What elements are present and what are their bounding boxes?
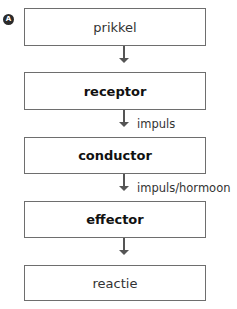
arrow-down-icon <box>119 250 129 255</box>
node-effector-label: effector <box>86 212 143 227</box>
edge-label-impuls: impuls <box>137 117 175 131</box>
edge-label-impuls-hormoon: impuls/hormoon <box>137 181 230 195</box>
arrow-down-icon <box>119 122 129 127</box>
arrow-prikkel-to-receptor <box>119 46 129 64</box>
node-effector: effector <box>24 201 206 238</box>
node-reactie-label: reactie <box>93 276 138 291</box>
marker-a-badge: A <box>3 14 14 25</box>
node-conductor: conductor <box>24 137 206 174</box>
node-conductor-label: conductor <box>78 148 152 163</box>
node-receptor-label: receptor <box>84 84 147 99</box>
arrow-down-icon <box>119 186 129 191</box>
node-prikkel: prikkel <box>24 8 206 46</box>
arrow-down-icon <box>119 58 129 63</box>
node-receptor: receptor <box>24 72 206 110</box>
arrow-effector-to-reactie <box>119 238 129 256</box>
arrow-receptor-to-conductor <box>119 110 129 128</box>
node-prikkel-label: prikkel <box>93 20 136 35</box>
arrow-conductor-to-effector <box>119 174 129 192</box>
node-reactie: reactie <box>24 265 206 301</box>
